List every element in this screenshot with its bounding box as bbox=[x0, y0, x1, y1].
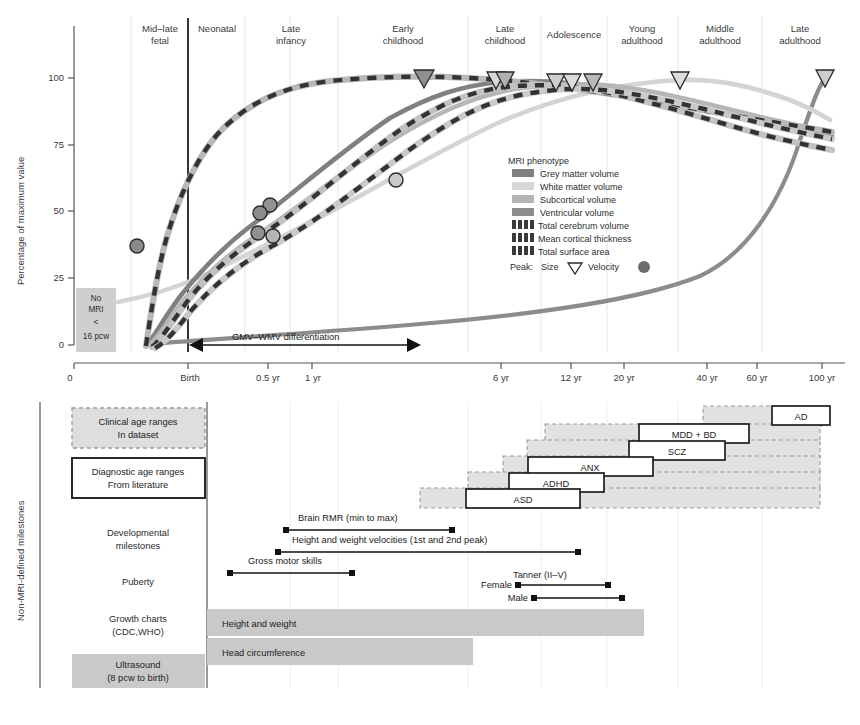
milestone-label-male: Male bbox=[508, 593, 528, 603]
diagnostic-label-asd: ASD bbox=[513, 495, 532, 505]
key-box-diagnostic-age-ranges bbox=[72, 458, 205, 498]
peak-size-marker bbox=[816, 70, 834, 87]
x-tick-40yr: 40 yr bbox=[696, 372, 717, 383]
y-tick-25: 25 bbox=[53, 272, 64, 283]
legend-peak-size-label: Size bbox=[541, 262, 559, 272]
legend-label-total-cerebrum-volume: Total cerebrum volume bbox=[538, 221, 629, 231]
svg-text:adulthood: adulthood bbox=[779, 35, 821, 46]
curve-grey-matter-volume bbox=[148, 81, 832, 344]
epoch-label-late-adulthood: Late bbox=[791, 23, 810, 34]
svg-text:childhood: childhood bbox=[383, 35, 424, 46]
legend-swatch-total-surface-area bbox=[512, 246, 534, 255]
milestone-label-tanner: Tanner (II–V) bbox=[513, 570, 567, 580]
legend-title: MRI phenotype bbox=[508, 156, 569, 166]
ultrasound-box-line1: Ultrasound bbox=[116, 660, 161, 670]
peak-velocity-marker bbox=[251, 226, 265, 240]
milestone-gross-motor-skills: Gross motor skills bbox=[227, 556, 355, 576]
peak-velocity-legend-icon bbox=[638, 261, 650, 273]
epoch-labels: Mid–late fetal Neonatal Late infancy Ear… bbox=[142, 23, 821, 46]
milestone-label-female: Female bbox=[481, 580, 512, 590]
y-tick-75: 75 bbox=[53, 139, 64, 150]
key-box-diagnostic-line1: Diagnostic age ranges bbox=[92, 467, 185, 477]
epoch-label-early-childhood: Early bbox=[392, 23, 414, 34]
legend: MRI phenotype Grey matter volume White m… bbox=[508, 156, 650, 274]
svg-text:16 pcw: 16 pcw bbox=[83, 331, 110, 341]
x-tick-6yr: 6 yr bbox=[493, 372, 509, 383]
epoch-label-mid-late-fetal: Mid–late bbox=[142, 23, 178, 34]
svg-text:childhood: childhood bbox=[485, 35, 526, 46]
x-tick-100yr: 100 yr bbox=[809, 372, 835, 383]
diagnostic-label-mdd-bd: MDD + BD bbox=[672, 430, 717, 440]
epoch-label-middle-adulthood: Middle bbox=[706, 23, 734, 34]
curve-ventricular-volume bbox=[148, 80, 824, 344]
legend-swatch-mean-cortical-thickness bbox=[512, 233, 534, 242]
legend-swatch-ventricular-volume bbox=[512, 208, 534, 216]
legend-peak-velocity-label: Velocity bbox=[588, 262, 620, 272]
legend-peak-title: Peak: bbox=[510, 262, 533, 272]
x-axis-ticks bbox=[74, 363, 822, 369]
x-tick-birth: Birth bbox=[180, 372, 200, 383]
gmv-wmv-differentiation-label: GMV–WMV differentiation bbox=[232, 332, 339, 342]
peak-velocity-marker bbox=[253, 206, 267, 220]
y-axis-ticks bbox=[68, 78, 74, 345]
legend-label-grey-matter-volume: Grey matter volume bbox=[540, 169, 619, 179]
legend-swatch-subcortical-volume bbox=[512, 195, 534, 203]
svg-text:No: No bbox=[91, 293, 102, 303]
milestone-label-brain-rmr: Brain RMR (min to max) bbox=[298, 513, 398, 523]
top-panel-chart: 0 25 50 75 100 Percentage of maximum val… bbox=[0, 0, 860, 400]
diagnostic-label-adhd: ADHD bbox=[543, 479, 570, 489]
x-tick-0-5yr: 0.5 yr bbox=[256, 372, 280, 383]
row-label-puberty: Puberty bbox=[122, 577, 154, 587]
row-label-growth-charts-line1: Growth charts bbox=[109, 614, 167, 624]
epoch-label-adolescence: Adolescence bbox=[547, 29, 601, 40]
epoch-label-young-adulthood: Young bbox=[629, 23, 656, 34]
svg-text:infancy: infancy bbox=[276, 35, 306, 46]
milestone-height-weight-velocities: Height and weight velocities (1st and 2n… bbox=[275, 535, 581, 555]
x-tick-1yr: 1 yr bbox=[305, 372, 321, 383]
epoch-gridlines bbox=[131, 16, 762, 352]
svg-text:MRI: MRI bbox=[88, 304, 103, 314]
gmv-wmv-differentiation-annotation: GMV–WMV differentiation bbox=[189, 332, 421, 352]
milestone-label-gross-motor-skills: Gross motor skills bbox=[248, 556, 322, 566]
x-tick-12yr: 12 yr bbox=[560, 372, 581, 383]
diagnostic-label-scz: SCZ bbox=[668, 447, 687, 457]
svg-text:adulthood: adulthood bbox=[699, 35, 741, 46]
ultrasound-box-line2: (8 pcw to birth) bbox=[107, 673, 168, 683]
epoch-label-neonatal: Neonatal bbox=[198, 23, 236, 34]
diagnostic-label-ad: AD bbox=[795, 412, 808, 422]
svg-text:adulthood: adulthood bbox=[621, 35, 663, 46]
y-tick-50: 50 bbox=[53, 205, 64, 216]
milestone-brain-rmr: Brain RMR (min to max) bbox=[283, 513, 455, 533]
x-axis-origin-label: 0 bbox=[67, 372, 72, 383]
y-tick-0: 0 bbox=[59, 339, 64, 350]
legend-label-white-matter-volume: White matter volume bbox=[540, 182, 623, 192]
milestone-tanner: Tanner (II–V) Female Male bbox=[481, 570, 625, 603]
x-tick-20yr: 20 yr bbox=[613, 372, 634, 383]
row-label-developmental-line2: milestones bbox=[116, 541, 161, 551]
bottom-axis-title: Non-MRI-defined milestones bbox=[15, 500, 26, 621]
diagnostic-label-anx: ANX bbox=[580, 463, 599, 473]
svg-text:<: < bbox=[94, 317, 99, 327]
legend-swatch-total-cerebrum-volume bbox=[512, 220, 534, 229]
legend-label-total-surface-area: Total surface area bbox=[538, 247, 610, 257]
figure-root: 0 25 50 75 100 Percentage of maximum val… bbox=[0, 0, 860, 725]
legend-label-subcortical-volume: Subcortical volume bbox=[540, 195, 616, 205]
epoch-label-late-infancy: Late bbox=[282, 23, 301, 34]
milestone-label-height-weight-velocities: Height and weight velocities (1st and 2n… bbox=[292, 535, 487, 545]
svg-text:fetal: fetal bbox=[151, 35, 169, 46]
peak-velocity-marker bbox=[130, 239, 144, 253]
growth-bar-label-height-and-weight: Height and weight bbox=[222, 619, 297, 629]
y-tick-100: 100 bbox=[48, 72, 64, 83]
peak-size-legend-icon bbox=[568, 263, 582, 274]
legend-label-ventricular-volume: Ventricular volume bbox=[540, 208, 614, 218]
key-box-clinical-age-ranges bbox=[72, 408, 205, 448]
legend-swatch-grey-matter-volume bbox=[512, 169, 534, 177]
y-axis-title: Percentage of maximum value bbox=[15, 157, 26, 285]
key-box-clinical-line1: Clinical age ranges bbox=[98, 417, 177, 427]
row-label-growth-charts-line2: (CDC,WHO) bbox=[112, 627, 164, 637]
peak-velocity-marker bbox=[266, 229, 280, 243]
epoch-label-late-childhood: Late bbox=[496, 23, 515, 34]
row-label-developmental-line1: Developmental bbox=[107, 528, 169, 538]
legend-label-mean-cortical-thickness: Mean cortical thickness bbox=[538, 234, 632, 244]
key-box-clinical-line2: In dataset bbox=[118, 430, 159, 440]
